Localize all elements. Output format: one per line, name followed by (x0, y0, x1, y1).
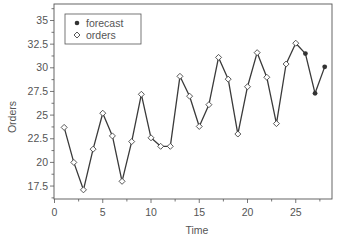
y-tick-label: 20 (36, 156, 48, 168)
y-tick-label: 30 (36, 61, 48, 73)
forecast-marker (322, 64, 327, 69)
x-tick-label: 5 (100, 206, 106, 218)
orders-marker (225, 76, 231, 82)
line-chart: 051015202517.52022.52527.53032.535 forec… (0, 0, 341, 248)
chart: 051015202517.52022.52527.53032.535 forec… (0, 0, 341, 248)
orders-marker (216, 54, 222, 60)
y-tick-label: 35 (36, 14, 48, 26)
orders-marker (177, 73, 183, 79)
forecast-legend-icon (75, 21, 80, 26)
orders-marker (119, 178, 125, 184)
legend: forecast orders (65, 14, 141, 44)
x-tick-label: 20 (242, 206, 254, 218)
orders-marker (138, 91, 144, 97)
orders-marker (273, 121, 279, 127)
orders-marker (71, 159, 77, 165)
orders-marker (283, 61, 289, 67)
series-markers (61, 40, 327, 193)
orders-marker (196, 123, 202, 129)
x-tick-label: 25 (290, 206, 302, 218)
y-tick-label: 17.5 (28, 180, 49, 192)
orders-marker (80, 187, 86, 193)
y-tick-label: 27.5 (28, 85, 49, 97)
orders-marker (264, 74, 270, 80)
forecast-marker (303, 51, 308, 56)
legend-label-orders: orders (86, 29, 116, 41)
y-tick-label: 25 (36, 109, 48, 121)
orders-marker (129, 139, 135, 145)
orders-marker (254, 50, 260, 56)
orders-marker (206, 102, 212, 108)
orders-marker (61, 124, 67, 130)
legend-label-forecast: forecast (86, 17, 123, 29)
y-tick-label: 32.5 (28, 38, 49, 50)
orders-marker (90, 146, 96, 152)
x-axis-label: Time (186, 224, 209, 236)
orders-marker (187, 93, 193, 99)
forecast-marker (313, 91, 318, 96)
x-tick-label: 10 (145, 206, 157, 218)
orders-marker (235, 131, 241, 137)
y-axis-label: Orders (6, 101, 18, 133)
orders-marker (245, 84, 251, 90)
orders-marker (109, 133, 115, 139)
y-tick-label: 22.5 (28, 132, 49, 144)
x-tick-label: 0 (52, 206, 58, 218)
x-tick-label: 15 (193, 206, 205, 218)
orders-marker (100, 110, 106, 116)
orders-marker (167, 143, 173, 149)
